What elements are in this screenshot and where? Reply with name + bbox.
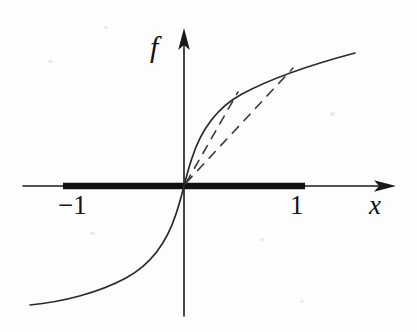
x-tick-label-one: 1 <box>290 192 304 219</box>
x-axis-label: x <box>369 192 381 219</box>
y-axis-label: f <box>150 32 158 62</box>
secant-line-2 <box>186 68 293 183</box>
figure-canvas: f x −1 1 <box>0 0 417 332</box>
function-curve <box>30 53 355 305</box>
secant-line-1 <box>186 92 238 183</box>
x-tick-label-negative-one: −1 <box>58 192 87 219</box>
function-graph-svg <box>0 0 417 332</box>
